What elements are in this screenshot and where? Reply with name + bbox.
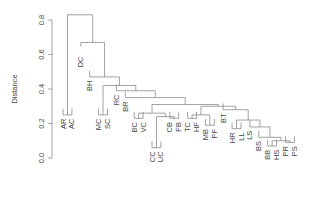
leaf-label-cc: CC	[148, 151, 157, 162]
leaf-label-br: BR	[121, 101, 130, 112]
y-tick-label: 0.2	[37, 118, 46, 128]
leaf-label-pr: PR	[281, 146, 290, 157]
leaf-label-rc: RC	[112, 94, 121, 105]
leaf-label-vc: VC	[139, 121, 148, 132]
dendrogram-chart: 0.00.20.40.60.8 ARACDCBHMCSCRCBRBCVCCCUC…	[0, 0, 331, 197]
y-tick-label: 0.8	[37, 15, 46, 25]
leaf-label-tc: TC	[183, 121, 192, 132]
leaf-label-dc: DC	[76, 56, 85, 67]
leaf-labels: ARACDCBHMCSCRCBRBCVCCCUCCBFBTCHFMBPFBTHR…	[59, 56, 299, 162]
leaf-label-mb: MB	[201, 129, 210, 140]
leaf-label-uc: UC	[156, 151, 165, 162]
leaf-label-ar: AR	[59, 118, 68, 129]
leaf-label-bt: BT	[219, 113, 228, 123]
leaf-label-bb: BB	[263, 150, 272, 160]
y-axis: 0.00.20.40.60.8	[37, 15, 52, 163]
y-tick-label: 0.6	[37, 49, 46, 59]
y-tick-label: 0.4	[37, 84, 46, 94]
leaf-label-cb: CB	[165, 122, 174, 132]
leaf-label-hf: HF	[192, 122, 201, 132]
y-axis-label: Distance	[10, 74, 19, 103]
leaf-label-bs: BS	[254, 141, 263, 151]
leaf-label-ls: LS	[245, 131, 254, 140]
leaf-label-pf: PF	[210, 129, 219, 139]
leaf-label-mc: MC	[94, 118, 103, 130]
leaf-label-ll: LL	[237, 132, 246, 140]
leaf-label-hr: HR	[228, 132, 237, 143]
y-tick-label: 0.0	[37, 153, 46, 163]
leaf-label-fb: FB	[174, 122, 183, 132]
leaf-label-ac: AC	[67, 118, 76, 129]
leaf-label-ps: PS	[290, 146, 299, 156]
leaf-label-sc: SC	[103, 118, 112, 129]
leaf-label-bh: BH	[85, 81, 94, 91]
leaf-label-bc: BC	[130, 121, 139, 132]
leaf-label-hs: HS	[272, 150, 281, 160]
